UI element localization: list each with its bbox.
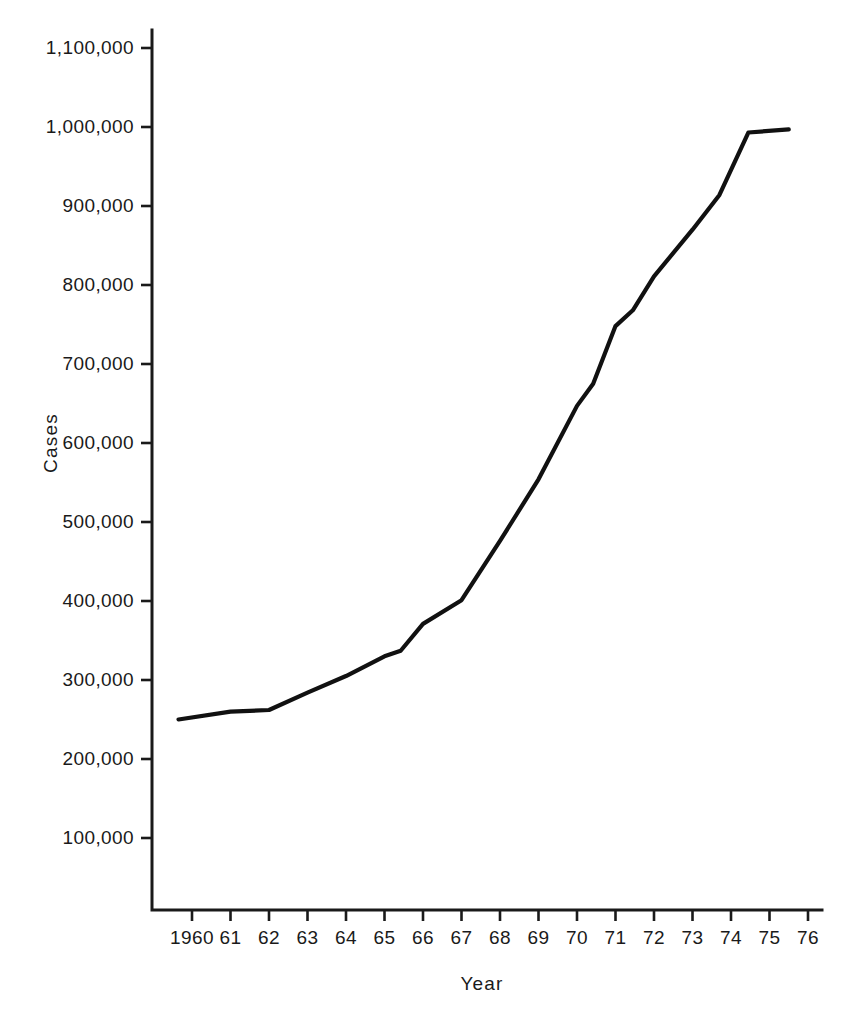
y-axis-tick-label: 300,000: [63, 669, 134, 690]
y-axis-tick-label: 200,000: [63, 748, 134, 769]
x-axis-tick-label: 62: [258, 927, 280, 948]
data-series-cases: [179, 129, 789, 719]
x-axis-tick-label: 72: [643, 927, 665, 948]
x-axis-tick-label: 1960: [170, 927, 214, 948]
x-axis-tick-label: 68: [489, 927, 511, 948]
x-axis-tick-label: 65: [374, 927, 396, 948]
line-chart: 100,000200,000300,000400,000500,000600,0…: [0, 0, 849, 1016]
x-axis-tick-label: 75: [759, 927, 781, 948]
x-axis-tick-label: 67: [451, 927, 473, 948]
x-axis-tick-label: 74: [720, 927, 742, 948]
x-axis-tick-label: 63: [297, 927, 319, 948]
x-axis-tick-label: 70: [566, 927, 588, 948]
y-axis-tick-label: 800,000: [63, 274, 134, 295]
x-axis-tick-label: 66: [412, 927, 434, 948]
y-axis-tick-label: 700,000: [63, 353, 134, 374]
y-axis-tick-label: 500,000: [63, 511, 134, 532]
y-axis-tick-marks: [141, 48, 152, 838]
y-axis-title: Cases: [40, 413, 61, 473]
chart-canvas: 100,000200,000300,000400,000500,000600,0…: [0, 0, 849, 1016]
x-axis-tick-label: 61: [220, 927, 242, 948]
y-axis-tick-label: 100,000: [63, 827, 134, 848]
y-axis-tick-label: 1,100,000: [46, 37, 134, 58]
x-axis-tick-label: 64: [335, 927, 357, 948]
y-axis-tick-label: 900,000: [63, 195, 134, 216]
x-axis-tick-label: 69: [528, 927, 550, 948]
chart-axes: [152, 30, 822, 910]
y-axis-tick-label: 1,000,000: [46, 116, 134, 137]
y-axis-tick-label: 600,000: [63, 432, 134, 453]
y-axis-tick-label: 400,000: [63, 590, 134, 611]
x-axis-tick-labels: 196061626364656667686970717273747576: [170, 927, 819, 948]
x-axis-tick-label: 76: [797, 927, 819, 948]
x-axis-tick-marks: [192, 910, 808, 921]
x-axis-title: Year: [460, 973, 503, 994]
x-axis-tick-label: 73: [682, 927, 704, 948]
x-axis-tick-label: 71: [605, 927, 627, 948]
